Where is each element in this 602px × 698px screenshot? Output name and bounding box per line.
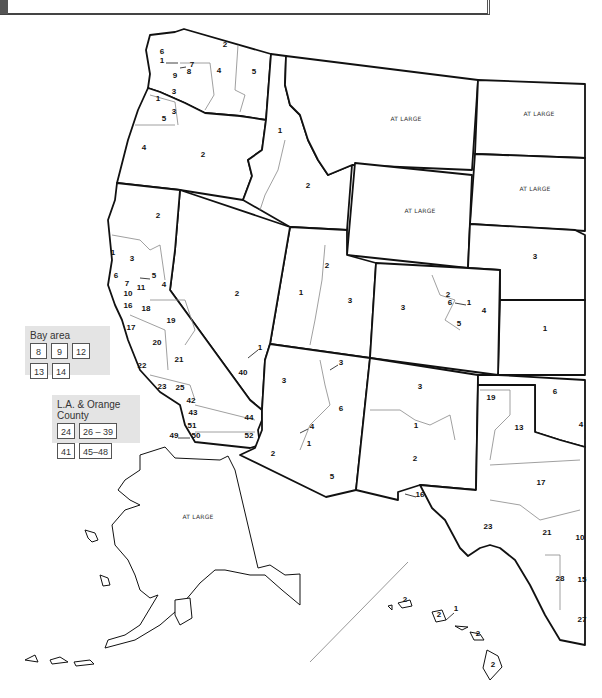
district-number-label: 5 xyxy=(162,114,167,123)
district-number-label: 20 xyxy=(153,338,162,347)
district-number-label: 10 xyxy=(124,289,133,298)
district-number-label: 1 xyxy=(467,298,472,307)
district-number-label: 5 xyxy=(252,67,257,76)
at-large-label: AT LARGE xyxy=(390,115,421,122)
district-number-label: 9 xyxy=(173,71,178,80)
inset-district-box: 9 xyxy=(51,343,68,359)
district-number-label: 5 xyxy=(152,271,157,280)
district-number-label: 17 xyxy=(537,478,546,487)
district-number-label: 2 xyxy=(403,595,408,604)
inset-district-box: 8 xyxy=(30,343,47,359)
district-number-label: 4 xyxy=(217,66,222,75)
district-number-label: 11 xyxy=(137,283,146,292)
district-number-label: 1 xyxy=(454,604,459,613)
state-alaska xyxy=(105,447,300,648)
state-north-dakota xyxy=(475,80,585,158)
district-number-label: 4 xyxy=(142,143,147,152)
district-number-label: 2 xyxy=(235,289,240,298)
district-number-label: 1 xyxy=(160,56,165,65)
district-number-label: 17 xyxy=(127,323,136,332)
at-large-label: AT LARGE xyxy=(182,513,213,520)
district-number-label: 43 xyxy=(189,408,198,417)
district-number-label: 5 xyxy=(457,319,462,328)
alaska-island xyxy=(50,657,68,664)
state-south-dakota xyxy=(470,154,585,231)
district-number-label: 50 xyxy=(192,431,201,440)
state-colorado xyxy=(370,263,500,375)
district-number-label: 6 xyxy=(160,47,165,56)
bay-area-inset: Bay area 89121314 xyxy=(25,326,110,375)
district-number-label: 18 xyxy=(142,304,151,313)
inset-district-box: 24 xyxy=(57,423,75,439)
district-number-label: 7 xyxy=(125,279,130,288)
inset-district-box: 26 – 39 xyxy=(79,423,117,439)
alaska-island xyxy=(74,660,94,666)
district-number-label: 52 xyxy=(245,431,254,440)
at-large-label: AT LARGE xyxy=(519,185,550,192)
bay-area-inset-title: Bay area xyxy=(30,330,105,341)
district-number-label: 2 xyxy=(437,610,442,619)
district-number-label: 6 xyxy=(553,387,558,396)
district-number-label: 19 xyxy=(487,393,496,402)
district-number-label: 3 xyxy=(172,107,177,116)
inset-district-box: 14 xyxy=(52,363,70,379)
alaska-island xyxy=(85,530,98,542)
district-number-label: 44 xyxy=(245,413,254,422)
at-large-label: AT LARGE xyxy=(404,207,435,214)
district-number-label: 4 xyxy=(482,306,487,315)
district-number-label: 1 xyxy=(278,126,283,135)
district-number-label: 3 xyxy=(348,296,353,305)
hawaii-island xyxy=(388,605,392,610)
alaska-island xyxy=(25,655,38,662)
district-number-label: 4 xyxy=(579,420,584,429)
district-number-label: 40 xyxy=(239,368,248,377)
state-kansas xyxy=(498,300,585,375)
district-number-label: 10 xyxy=(576,533,585,542)
district-number-label: 13 xyxy=(515,423,524,432)
district-number-label: 3 xyxy=(401,303,406,312)
district-number-label: 49 xyxy=(170,431,179,440)
district-number-label: 25 xyxy=(176,383,185,392)
district-number-label: 2 xyxy=(325,261,330,270)
la-orange-box-list: 2426 – 394145–48 xyxy=(57,423,135,459)
district-number-label: 21 xyxy=(175,355,184,364)
district-number-label: 2 xyxy=(306,181,311,190)
district-number-label: 1 xyxy=(307,439,312,448)
inset-divider-line xyxy=(310,562,408,662)
district-number-label: 42 xyxy=(187,396,196,405)
state-wyoming xyxy=(347,163,472,268)
district-number-label: 3 xyxy=(418,382,423,391)
alaska-island xyxy=(175,598,192,625)
inset-district-box: 45–48 xyxy=(79,443,112,459)
inset-district-box: 12 xyxy=(72,343,90,359)
hawaii-island xyxy=(455,626,468,630)
alaska-island xyxy=(100,575,110,586)
inset-district-box: 41 xyxy=(57,443,75,459)
district-number-label: 2 xyxy=(476,629,481,638)
district-number-label: 2 xyxy=(491,660,496,669)
district-number-label: 2 xyxy=(271,449,276,458)
district-number-label: 1 xyxy=(414,421,419,430)
at-large-label: AT LARGE xyxy=(523,110,554,117)
la-orange-inset: L.A. & Orange County 2426 – 394145–48 xyxy=(52,395,140,443)
district-number-label: 22 xyxy=(138,361,147,370)
district-number-label: 51 xyxy=(188,421,197,430)
district-number-label: 3 xyxy=(339,358,344,367)
district-number-label: 2 xyxy=(201,150,206,159)
la-orange-inset-title: L.A. & Orange County xyxy=(57,399,135,421)
district-number-label: 2 xyxy=(413,454,418,463)
district-number-label: 1 xyxy=(258,343,263,352)
district-number-label: 4 xyxy=(162,280,167,289)
district-number-label: 16 xyxy=(416,490,425,499)
district-number-label: 23 xyxy=(158,382,167,391)
district-number-label: 5 xyxy=(330,472,335,481)
district-number-label: 2 xyxy=(223,40,228,49)
district-number-label: 8 xyxy=(187,67,192,76)
district-number-label: 3 xyxy=(172,87,177,96)
district-number-label: 1 xyxy=(543,324,548,333)
district-number-label: 6 xyxy=(448,298,453,307)
bay-area-box-list: 89121314 xyxy=(30,343,105,379)
district-number-label: 3 xyxy=(533,252,538,261)
district-number-label: 15 xyxy=(578,575,587,584)
district-number-label: 6 xyxy=(339,404,344,413)
